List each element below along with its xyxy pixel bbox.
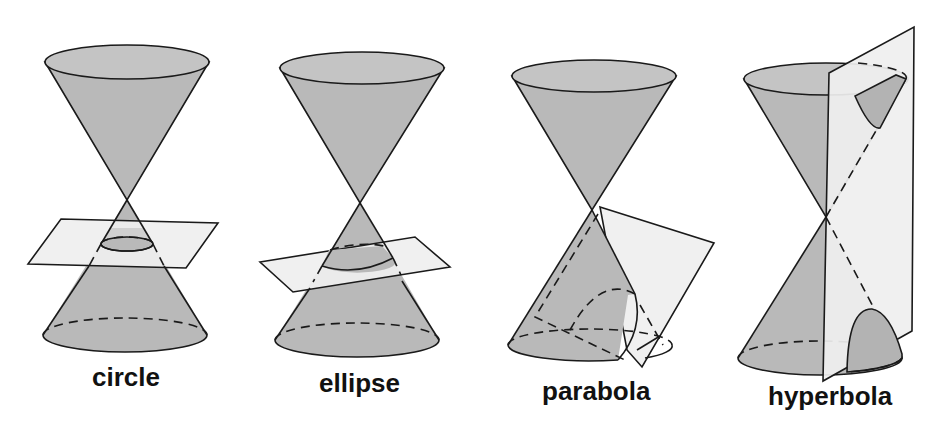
label-hyperbola: hyperbola [768, 383, 892, 409]
conic-sections-figure: circle ellipse parabola hyperbola [0, 0, 938, 427]
parabola-upper-cone [512, 60, 676, 210]
ellipse-upper-cone [280, 52, 444, 203]
label-parabola: parabola [542, 378, 650, 404]
ellipse-panel [260, 52, 450, 357]
circle-upper-cone [45, 45, 209, 200]
parabola-panel [508, 60, 714, 367]
label-circle: circle [92, 364, 160, 390]
label-ellipse: ellipse [319, 370, 400, 396]
circle-panel [28, 45, 218, 352]
hyperbola-panel [738, 27, 914, 381]
hyperbola-cutting-plane [823, 27, 914, 381]
